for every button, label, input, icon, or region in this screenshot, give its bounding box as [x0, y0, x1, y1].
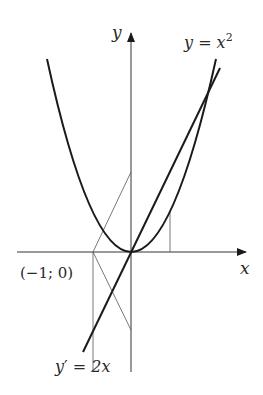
math-diagram: y x y = x2 (−1; 0) y′ = 2x: [0, 0, 263, 395]
parabola-label: y = x2: [183, 31, 233, 52]
derivative-label: y′ = 2x: [54, 357, 110, 376]
point-label: (−1; 0): [20, 264, 73, 282]
tangent-construction-up: [93, 172, 131, 252]
x-axis-label: x: [240, 258, 250, 278]
y-axis-label: y: [111, 22, 122, 42]
derivative-line: [83, 68, 220, 352]
